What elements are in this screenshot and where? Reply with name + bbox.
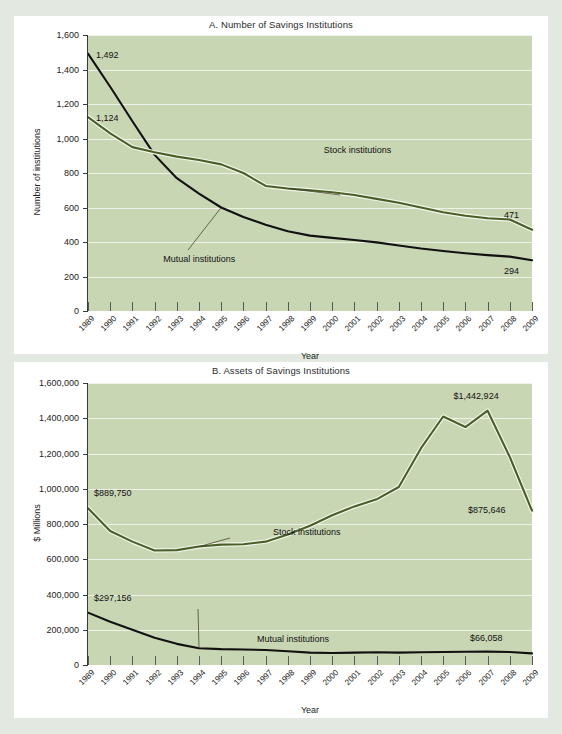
series-callout-label: Mutual institutions: [163, 254, 235, 264]
callout-leader-layer: [88, 383, 532, 665]
data-value-label: 1,492: [96, 50, 119, 60]
y-axis-tick-label: 1,400: [56, 65, 79, 75]
x-axis-tick: [88, 656, 89, 665]
x-axis-tick-label: 2006: [448, 668, 474, 694]
y-axis-tick-label: 200,000: [46, 625, 79, 635]
x-axis-tick-label: 1993: [159, 668, 185, 694]
x-axis-tick-label: 1999: [292, 668, 318, 694]
x-axis-tick-label: 2000: [314, 314, 340, 340]
x-axis-tick-label: 1990: [92, 668, 118, 694]
x-axis-tick-label: 2001: [337, 314, 363, 340]
x-axis-tick: [377, 656, 378, 665]
data-value-label: 471: [504, 210, 519, 220]
y-axis-tick-label: 0: [74, 660, 79, 670]
y-axis-tick-label: 1,400,000: [39, 413, 79, 423]
y-axis-tick-label: 1,200: [56, 99, 79, 109]
chart-a-y-axis-label: Number of institutions: [32, 127, 42, 217]
series-callout-label: Stock institutions: [273, 527, 341, 537]
x-axis-tick-label: 1992: [137, 668, 163, 694]
x-axis-tick-label: 2009: [514, 668, 540, 694]
y-axis-tick-label: 800: [64, 168, 79, 178]
chart-a-card: A. Number of Savings Institutions Number…: [14, 16, 548, 354]
y-axis-tick-label: 1,000,000: [39, 484, 79, 494]
x-axis-tick: [177, 656, 178, 665]
data-value-label: $889,750: [94, 488, 132, 498]
x-axis-tick: [332, 656, 333, 665]
series-callout-label: Mutual institutions: [257, 634, 329, 644]
data-value-label: 1,124: [96, 113, 119, 123]
y-axis-tick-label: 600: [64, 203, 79, 213]
x-axis-tick-label: 1998: [270, 314, 296, 340]
x-axis-tick: [199, 656, 200, 665]
x-axis-tick-label: 2003: [381, 668, 407, 694]
callout-leader-layer: [88, 35, 532, 311]
callout-leader-line: [288, 189, 340, 196]
y-axis-line: [87, 383, 88, 665]
x-axis-tick: [510, 656, 511, 665]
x-axis-tick-label: 2000: [314, 668, 340, 694]
x-axis-tick-label: 1995: [203, 314, 229, 340]
x-axis-tick-label: 2008: [492, 314, 518, 340]
x-axis-tick: [132, 302, 133, 311]
x-axis-tick-label: 2002: [359, 314, 385, 340]
x-axis-tick-label: 1992: [137, 314, 163, 340]
x-axis-tick: [465, 656, 466, 665]
x-axis-tick: [221, 302, 222, 311]
x-axis-tick: [155, 656, 156, 665]
x-axis-tick: [354, 302, 355, 311]
x-axis-tick: [88, 302, 89, 311]
y-axis-tick-label: 1,000: [56, 134, 79, 144]
x-axis-tick-label: 1998: [270, 668, 296, 694]
x-axis-tick-label: 1995: [203, 668, 229, 694]
x-axis-tick-label: 1991: [115, 668, 141, 694]
y-axis-tick-label: 400: [64, 237, 79, 247]
x-axis-tick-label: 2007: [470, 314, 496, 340]
x-axis-tick: [310, 656, 311, 665]
x-axis-tick-label: 1991: [115, 314, 141, 340]
x-axis-tick: [488, 302, 489, 311]
chart-a-x-axis-label: Year: [88, 351, 532, 361]
callout-leader-line: [188, 208, 221, 251]
x-axis-tick-label: 1996: [226, 314, 252, 340]
x-axis-tick: [488, 656, 489, 665]
x-axis-tick: [421, 302, 422, 311]
chart-a-plot-area: 1,4921,124471294Stock institutionsMutual…: [88, 35, 532, 311]
x-axis-tick: [377, 302, 378, 311]
x-axis-tick: [443, 656, 444, 665]
x-axis-tick: [310, 302, 311, 311]
callout-leader-line: [199, 538, 230, 547]
x-axis-tick-label: 1997: [248, 668, 274, 694]
x-axis-tick: [132, 656, 133, 665]
y-axis-tick-label: 200: [64, 272, 79, 282]
series-callout-label: Stock institutions: [324, 145, 392, 155]
x-axis-tick: [199, 302, 200, 311]
x-axis-tick: [465, 302, 466, 311]
x-axis-tick-label: 1994: [181, 668, 207, 694]
y-axis-tick: [83, 665, 88, 666]
x-axis-tick-label: 2005: [425, 314, 451, 340]
chart-b-x-axis-label: Year: [88, 705, 532, 715]
x-axis-tick-label: 2004: [403, 668, 429, 694]
x-axis-tick-label: 1994: [181, 314, 207, 340]
x-axis-tick-label: 2002: [359, 668, 385, 694]
y-axis-tick-label: 1,600,000: [39, 378, 79, 388]
x-axis-tick: [354, 656, 355, 665]
x-axis-tick: [288, 656, 289, 665]
x-axis-tick-label: 2006: [448, 314, 474, 340]
callout-leader-line: [198, 609, 199, 648]
data-value-label: $66,058: [470, 633, 503, 643]
x-axis-tick: [266, 302, 267, 311]
y-axis-tick: [83, 311, 88, 312]
figure-page: A. Number of Savings Institutions Number…: [0, 0, 562, 734]
y-axis-line: [87, 35, 88, 311]
data-value-label: $1,442,924: [454, 391, 499, 401]
x-axis-tick: [221, 656, 222, 665]
x-axis-tick: [288, 302, 289, 311]
data-value-label: $297,156: [94, 593, 132, 603]
x-axis-tick: [421, 656, 422, 665]
x-axis-tick-label: 1989: [70, 314, 96, 340]
x-axis-tick: [266, 656, 267, 665]
x-axis-tick-label: 1997: [248, 314, 274, 340]
chart-b-card: B. Assets of Savings Institutions $ Mill…: [14, 362, 548, 718]
x-axis-tick: [243, 302, 244, 311]
